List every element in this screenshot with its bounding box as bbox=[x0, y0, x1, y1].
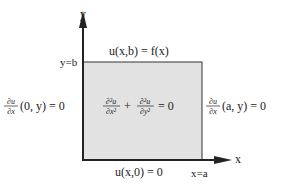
y-tick-label: y=b bbox=[60, 56, 78, 68]
laplace-rectangle-diagram: y x y=b x=a u(x,b) = f(x) u(x,0) = 0 ∂u … bbox=[0, 0, 286, 184]
left-boundary-condition: ∂u ∂x (0, y) = 0 bbox=[4, 97, 65, 116]
right-bc-numerator: ∂u bbox=[209, 97, 217, 106]
right-bc-args: (a, y) = 0 bbox=[222, 99, 266, 113]
pde-plus: + bbox=[124, 99, 131, 113]
x-tick-label: x=a bbox=[191, 167, 208, 179]
x-axis-label: x bbox=[235, 152, 241, 166]
bottom-boundary-condition: u(x,0) = 0 bbox=[115, 165, 163, 179]
top-boundary-condition: u(x,b) = f(x) bbox=[109, 44, 169, 58]
pde-rhs: = 0 bbox=[158, 99, 174, 113]
left-bc-denominator: ∂x bbox=[7, 107, 15, 116]
pde-term2-denominator: ∂y² bbox=[140, 107, 151, 116]
left-bc-args: (0, y) = 0 bbox=[20, 99, 65, 113]
pde-term1-numerator: ∂²u bbox=[106, 97, 116, 106]
y-axis-label: y bbox=[80, 7, 86, 21]
x-axis-arrow-icon bbox=[214, 156, 232, 164]
right-bc-denominator: ∂x bbox=[209, 107, 217, 116]
pde-term1-denominator: ∂x² bbox=[106, 107, 117, 116]
left-bc-numerator: ∂u bbox=[7, 97, 15, 106]
right-boundary-condition: ∂u ∂x (a, y) = 0 bbox=[206, 97, 266, 116]
pde-term2-numerator: ∂²u bbox=[140, 97, 150, 106]
